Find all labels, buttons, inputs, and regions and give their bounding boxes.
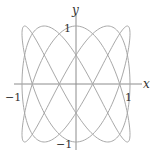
- lissajous-plot: x y −1 1 1 −1: [0, 0, 154, 153]
- x-tick-label-1: 1: [125, 91, 132, 104]
- x-tick-label-neg1: −1: [5, 91, 21, 104]
- y-tick-label-neg1: −1: [56, 138, 72, 151]
- y-tick-label-1: 1: [64, 22, 71, 35]
- x-axis-label: x: [143, 77, 150, 91]
- y-axis-label: y: [71, 3, 79, 17]
